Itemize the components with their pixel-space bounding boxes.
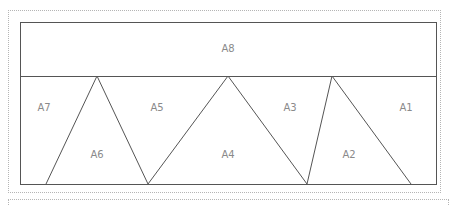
region-label-a3: A3 [283, 102, 296, 113]
zigzag-lines [46, 76, 411, 184]
region-label-a7: A7 [37, 102, 50, 113]
region-label-a1: A1 [399, 102, 412, 113]
region-label-a2: A2 [342, 149, 355, 160]
region-label-a4: A4 [221, 149, 234, 160]
region-label-a6: A6 [90, 149, 103, 160]
area-diagram [0, 0, 455, 206]
region-label-a5: A5 [150, 102, 163, 113]
region-label-a8: A8 [221, 43, 234, 54]
